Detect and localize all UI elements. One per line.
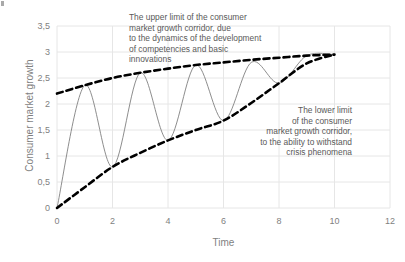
lower-limit-annotation: The lower limit of the consumer market g… [196,105,352,158]
chart-container: 00,511,522,533,5 024681012 Consumer mark… [0,0,405,262]
x-tick-label: 6 [214,216,234,226]
x-tick-label: 10 [325,216,345,226]
x-tick-label: 4 [158,216,178,226]
x-tick-label: 0 [47,216,67,226]
x-tick-label: 12 [380,216,400,226]
x-axis-title: Time [57,237,390,248]
upper-limit-annotation: The upper limit of the consumer market g… [129,12,309,65]
y-tick-label: 0 [24,203,50,213]
y-tick-label: 3,5 [24,21,50,31]
x-tick-label: 8 [269,216,289,226]
x-tick-label: 2 [103,216,123,226]
y-axis-title: Consumer market growth [24,41,35,191]
